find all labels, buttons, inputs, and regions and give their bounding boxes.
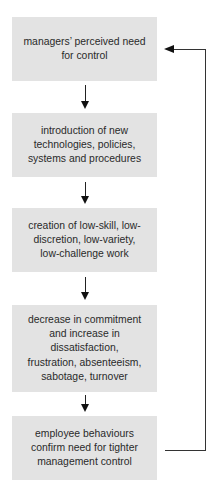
arrow-line-1 — [85, 85, 86, 102]
text-line: low-challenge work — [28, 247, 141, 261]
feedback-line-vertical — [205, 49, 206, 451]
box-employee-behaviours: employee behaviours confirm need for tig… — [12, 416, 157, 480]
text-line: technologies, policies, — [28, 138, 141, 152]
box-text: managers’ perceived need for control — [23, 35, 145, 64]
arrow-down-icon — [81, 292, 89, 300]
arrow-line-2 — [85, 182, 86, 197]
text-line: systems and procedures — [28, 152, 141, 166]
box-introduction-of-technologies: introduction of new technologies, polici… — [12, 113, 157, 177]
text-line: confirm need for tighter — [31, 441, 138, 455]
box-text: employee behaviours confirm need for tig… — [31, 427, 138, 470]
text-line: introduction of new — [28, 124, 141, 138]
feedback-line-top — [172, 49, 206, 50]
text-line: management control — [31, 455, 138, 469]
text-line: frustration, absenteeism, — [16, 356, 153, 370]
arrow-left-icon — [164, 45, 174, 53]
arrow-line-3 — [85, 277, 86, 293]
text-line: and increase in dissatisfaction, — [16, 327, 153, 356]
arrow-down-icon — [81, 101, 89, 109]
arrow-down-icon — [81, 196, 89, 204]
box-text: decrease in commitment and increase in d… — [16, 313, 153, 384]
box-text: creation of low-skill, low- discretion, … — [28, 219, 141, 262]
arrow-down-icon — [81, 404, 89, 412]
feedback-line-bottom — [165, 450, 206, 451]
text-line: employee behaviours — [31, 427, 138, 441]
box-low-skill-work: creation of low-skill, low- discretion, … — [12, 208, 157, 272]
text-line: managers’ perceived need — [23, 35, 145, 49]
text-line: creation of low-skill, low- — [28, 219, 141, 233]
text-line: decrease in commitment — [16, 313, 153, 327]
box-text: introduction of new technologies, polici… — [28, 124, 141, 167]
text-line: discretion, low-variety, — [28, 233, 141, 247]
box-decrease-in-commitment: decrease in commitment and increase in d… — [12, 305, 157, 392]
box-managers-need-for-control: managers’ perceived need for control — [12, 17, 157, 81]
text-line: sabotage, turnover — [16, 370, 153, 384]
text-line: for control — [23, 49, 145, 63]
